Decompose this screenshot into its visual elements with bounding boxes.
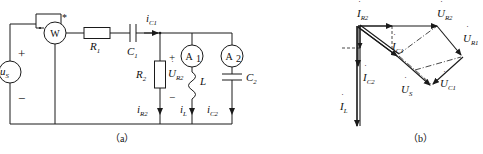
resistor-r2-label: R2 [136,69,146,83]
capacitor-c1 [130,24,144,42]
current-ic2-label: iC2 [207,104,218,118]
current-il-label: iL [180,104,187,118]
ammeter-a2-branch: A 2 [221,33,243,124]
capacitor-c2-label-sub: 2 [253,78,256,85]
phasor-uc1-label: ˙ UC1 [440,78,456,92]
phasor-dashdot-diag [415,57,461,70]
wattmeter-star-marker: * [62,12,67,23]
current-ic1-label-sub: C1 [149,19,157,26]
current-il-label-sub: L [183,110,187,117]
phasor-ic1-label: ˙ IC1 [392,41,404,55]
source-label-sub: S [6,72,9,79]
phasor-ur2-label-sub: R2 [445,14,453,21]
ammeter-a2-sub: 2 [236,53,241,64]
phasor-vector-us [397,56,430,85]
node-dot-r2 [159,32,162,35]
phasor-us-label-sub: S [409,90,412,97]
caption-a: （a） [110,134,134,144]
voltage-ur2-dot: ˙ [171,60,174,69]
voltage-ur2-label: ˙ UR2 [168,68,184,82]
phasor-ic1-dot: ˙ [393,33,396,42]
inductor-l-coil [189,72,196,99]
source-minus-sign: − [18,92,25,105]
capacitor-c1-label: C1 [127,46,138,60]
current-ic2-label-sub: C2 [210,110,218,117]
resistor-r2-body [155,61,166,88]
ammeter-a2-label: A [225,51,233,62]
resistor-r1-label-sub: 1 [97,47,100,54]
resistor-r2-branch [155,33,166,124]
phasor-ic1-label-sub: C1 [396,47,404,54]
resistor-r2-label-sub: 2 [143,75,146,82]
phasor-ur1-dot: ˙ [466,25,469,34]
wattmeter-dot-marker [39,27,41,29]
phasor-ur1-label-sub: R1 [471,39,479,46]
phasor-ir2-dot: ˙ [358,0,361,9]
ammeter-a1-label: A [185,51,193,62]
inductor-l-label: L [200,76,206,87]
phasor-us-label: ˙ US [401,84,412,98]
phasor-ic2-dot: ˙ [364,64,367,73]
source-plus-sign: + [18,47,25,60]
figure-container: W * [0,0,483,154]
phasor-ur2-dot: ˙ [440,0,443,9]
figure-svg: W * [0,0,483,154]
voltage-ur2-minus: − [169,92,175,103]
phasor-dashdot-upper [399,26,437,54]
caption-b: （b） [408,134,433,144]
voltage-ur2-label-sub: R2 [176,74,184,81]
phasor-il-label-sub: L [344,107,348,114]
ammeter-a1-sub: 1 [196,53,201,64]
inductor-l-label-text: L [200,75,206,87]
phasor-ir2-label: ˙ IR2 [357,8,368,22]
wattmeter: W * [36,12,84,124]
resistor-r1-label-text: R [90,40,97,52]
current-ir2-label: iR2 [137,104,148,118]
resistor-r1 [84,28,130,39]
phasor-ur1-label: ˙ UR1 [463,33,479,47]
phasor-ic2-label: ˙ IC2 [363,72,375,86]
phasor-ur2-label: ˙ UR2 [437,8,453,22]
capacitor-c1-label-sub: 1 [134,52,137,59]
source-label: uS [0,66,9,80]
source-branch [0,24,232,124]
phasor-uc1-dot: ˙ [443,70,446,79]
resistor-r1-body [84,28,110,39]
resistor-r1-label: R1 [90,41,100,55]
phasor-ic2-label-sub: C2 [367,78,375,85]
current-ic1-label: iC1 [146,13,157,27]
resistor-r2-label-text: R [136,68,143,80]
current-ir2-label-sub: R2 [140,110,148,117]
phasor-il-dot: ˙ [341,93,344,102]
capacitor-c2-label: C2 [246,72,257,86]
phasor-ir2-label-sub: R2 [361,14,369,21]
phasor-il-label: ˙ IL [340,101,347,115]
phasor-vector-ur1 [437,26,461,55]
phasor-us-dot: ˙ [404,76,407,85]
wattmeter-label: W [50,28,60,39]
phasor-uc1-label-sub: C1 [448,84,456,91]
